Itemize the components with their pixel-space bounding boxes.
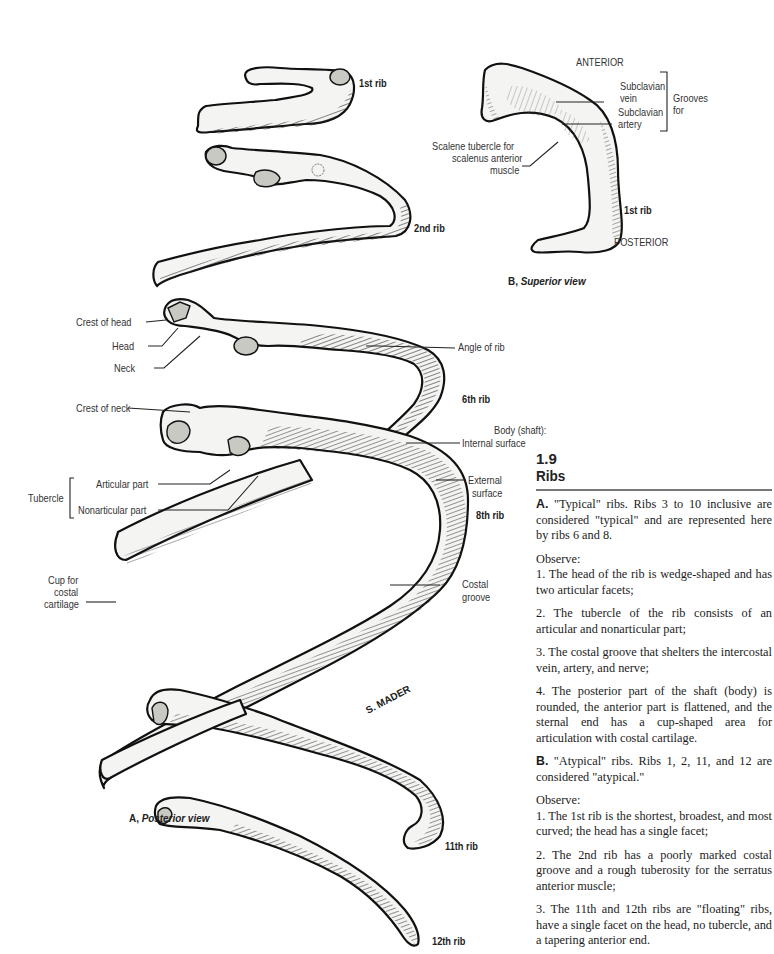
caption-panel-b: B, Superior view [508, 275, 586, 287]
label-subclavian-vein-1: Subclavian [620, 80, 665, 92]
label-internal-surface: Internal surface [462, 437, 526, 449]
caption-panel-b-view: Superior view [521, 275, 586, 287]
section-b-point-1: 1. The 1st rib is the shortest, broadest… [536, 809, 772, 840]
section-a-point-2: 2. The tubercle of the rib consists of a… [536, 606, 772, 637]
label-cup-2: costal [54, 586, 78, 598]
label-external-surface-1: External [468, 474, 502, 486]
label-11th-rib: 11th rib [445, 840, 478, 852]
label-scalene-2: scalenus anterior [452, 152, 522, 164]
label-articular-part: Articular part [96, 478, 148, 490]
figure-title: Ribs [536, 467, 565, 484]
label-cup-3: cartilage [44, 598, 79, 610]
section-a-point-4: 4. The posterior part of the shaft (body… [536, 684, 772, 746]
section-b-observe: Observe: [536, 793, 772, 809]
label-tubercle: Tubercle [28, 492, 64, 504]
figure-number: 1.9 [536, 450, 557, 467]
label-cup-1: Cup for [48, 574, 78, 586]
label-angle-of-rib: Angle of rib [458, 341, 505, 353]
label-12th-rib: 12th rib [432, 935, 465, 947]
label-2nd-rib: 2nd rib [414, 222, 445, 234]
label-nonarticular-part: Nonarticular part [78, 504, 146, 516]
label-grooves-for-1: Grooves [673, 92, 708, 104]
label-body-shaft: Body (shaft): [494, 424, 546, 436]
label-crest-of-neck: Crest of neck [76, 402, 130, 414]
label-scalene-1: Scalene tubercle for [432, 140, 514, 152]
label-anterior: ANTERIOR [576, 56, 624, 68]
legend-text: A. "Typical" ribs. Ribs 3 to 10 inclusiv… [536, 497, 772, 954]
caption-panel-a: A, Posterior view [129, 812, 209, 824]
label-costal-groove-2: groove [462, 591, 490, 603]
label-6th-rib: 6th rib [462, 393, 490, 405]
section-a-point-1: 1. The head of the rib is wedge-shaped a… [536, 567, 772, 598]
label-8th-rib: 8th rib [476, 509, 504, 521]
section-b-point-3: 3. The 11th and 12th ribs are "floating"… [536, 902, 772, 949]
section-a-observe: Observe: [536, 552, 772, 568]
section-b-point-2: 2. The 2nd rib has a poorly marked costa… [536, 848, 772, 895]
label-scalene-3: muscle [490, 164, 519, 176]
label-grooves-for-2: for [673, 104, 684, 116]
label-costal-groove-1: Costal [462, 578, 488, 590]
label-crest-of-head: Crest of head [76, 316, 131, 328]
label-posterior: POSTERIOR [614, 236, 668, 248]
artist-signature: S. MADER [364, 683, 413, 716]
caption-panel-a-view: Posterior view [142, 812, 210, 824]
section-b-intro-text: "Atypical" ribs. Ribs 1, 2, 11, and 12 a… [536, 754, 772, 784]
section-a-letter: A. [536, 497, 548, 511]
section-a-intro-text: "Typical" ribs. Ribs 3 to 10 inclusive a… [536, 497, 772, 542]
rib-1-posterior [197, 67, 354, 134]
label-head: Head [112, 340, 134, 352]
title-rule [536, 489, 772, 491]
section-b-letter: B. [536, 754, 548, 768]
section-b-intro: B. "Atypical" ribs. Ribs 1, 2, 11, and 1… [536, 754, 772, 785]
caption-panel-a-letter: A, [129, 812, 139, 824]
label-subclavian-artery-2: artery [618, 118, 642, 130]
label-subclavian-artery-1: Subclavian [618, 106, 663, 118]
section-a-point-3: 3. The costal groove that shelters the i… [536, 645, 772, 676]
label-subclavian-vein-2: vein [620, 92, 637, 104]
label-neck: Neck [114, 362, 135, 374]
label-1st-rib: 1st rib [359, 77, 387, 89]
rib-2-posterior [153, 146, 410, 286]
caption-panel-b-letter: B, [508, 275, 518, 287]
label-external-surface-2: surface [472, 487, 502, 499]
section-a-intro: A. "Typical" ribs. Ribs 3 to 10 inclusiv… [536, 497, 772, 544]
label-superior-1st-rib: 1st rib [624, 204, 652, 216]
